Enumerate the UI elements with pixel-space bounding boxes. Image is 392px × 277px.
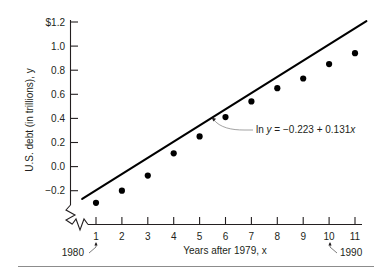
data-point [171,150,177,156]
x-tick-label: 4 [171,231,177,242]
data-point [145,173,151,179]
y-tick-label: $1.2 [46,17,66,28]
year-start-arrowhead-icon [94,242,97,245]
data-point [222,114,228,120]
data-point [326,61,332,67]
y-tick-label: 0.2 [51,137,65,148]
y-tick-label: −0.2 [45,185,65,196]
data-point [248,98,254,104]
equation-label: ln y = −0.223 + 0.131x [256,124,356,135]
debt-scatter-chart: $1.2 1.0 0.8 0.6 0.4 0.2 0.0 −0.2 U.S. d… [0,0,392,277]
year-start-label: 1980 [62,247,85,258]
equation-x: x [349,124,356,135]
equation-annotation: ln y = −0.223 + 0.131x [212,118,357,136]
y-tick-group: $1.2 1.0 0.8 0.6 0.4 0.2 0.0 −0.2 [45,17,78,197]
y-axis-title: U.S. debt (in trillions), y [24,68,35,171]
data-point [119,188,125,194]
x-tick-label: 10 [324,231,336,242]
x-axis-break-zigzag [72,219,88,230]
x-tick-label: 11 [350,231,361,242]
x-tick-label: 6 [223,231,229,242]
equation-rhs: −0.223 + 0.131 [283,124,351,135]
x-axis-title: Years after 1979, x [183,245,267,256]
year-start-annotation: 1980 [62,242,98,258]
y-tick-label: 1.0 [51,41,65,52]
data-point [274,85,280,91]
equation-leader-line [213,119,253,130]
x-tick-label: 3 [145,231,151,242]
regression-line [82,21,366,199]
x-tick-label: 5 [197,231,203,242]
data-point [93,200,99,206]
data-point [352,50,358,56]
year-end-annotation: 1990 [328,242,362,258]
year-end-label: 1990 [340,247,363,258]
data-point [300,75,306,81]
x-tick-label: 2 [119,231,125,242]
equation-arrowhead-icon [212,118,217,122]
y-tick-label: 0.4 [51,113,65,124]
y-axis-break-zigzag [66,205,75,224]
data-point [197,133,203,139]
x-tick-label: 1 [93,231,99,242]
figure-container: $1.2 1.0 0.8 0.6 0.4 0.2 0.0 −0.2 U.S. d… [0,0,392,277]
y-tick-label: 0.6 [51,89,65,100]
x-tick-group: 1 2 3 4 5 6 7 8 9 10 11 [93,217,360,242]
equation-ln: ln [256,124,264,135]
y-tick-label: 0.0 [51,161,65,172]
x-tick-label: 8 [275,231,281,242]
x-tick-label: 7 [249,231,255,242]
x-axis-title-text: Years after 1979, x [183,245,267,256]
year-end-arrowhead-icon [328,242,331,245]
x-tick-label: 9 [300,231,306,242]
y-tick-label: 0.8 [51,65,65,76]
